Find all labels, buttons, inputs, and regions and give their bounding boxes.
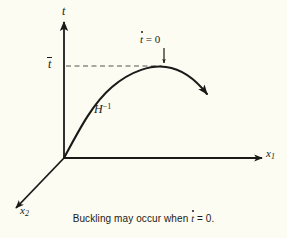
figure-caption: Buckling may occur when t = 0. (0, 213, 287, 224)
h-inverse-exponent: −1 (103, 102, 112, 111)
x1-subscript: 1 (271, 152, 275, 161)
t-dot-equals-zero-rest: = 0 (143, 33, 160, 45)
t-bar-overline: t (48, 57, 51, 70)
caption-text-before: Buckling may occur when (73, 213, 192, 224)
t-bar-label: t (48, 57, 51, 70)
t-dot-equals-zero-label: t = 0 (140, 34, 160, 45)
t-axis-label: t (62, 5, 65, 17)
caption-text-after: = 0. (194, 213, 214, 224)
h-inverse-base: H (94, 102, 103, 116)
x2-axis (16, 158, 64, 208)
x1-axis-label: x1 (266, 148, 275, 161)
trajectory-curve (64, 67, 207, 158)
h-inverse-curve-label: H−1 (94, 103, 111, 115)
t-dot-variable: t (140, 34, 143, 45)
caption-t-dot-variable: t (191, 213, 194, 224)
